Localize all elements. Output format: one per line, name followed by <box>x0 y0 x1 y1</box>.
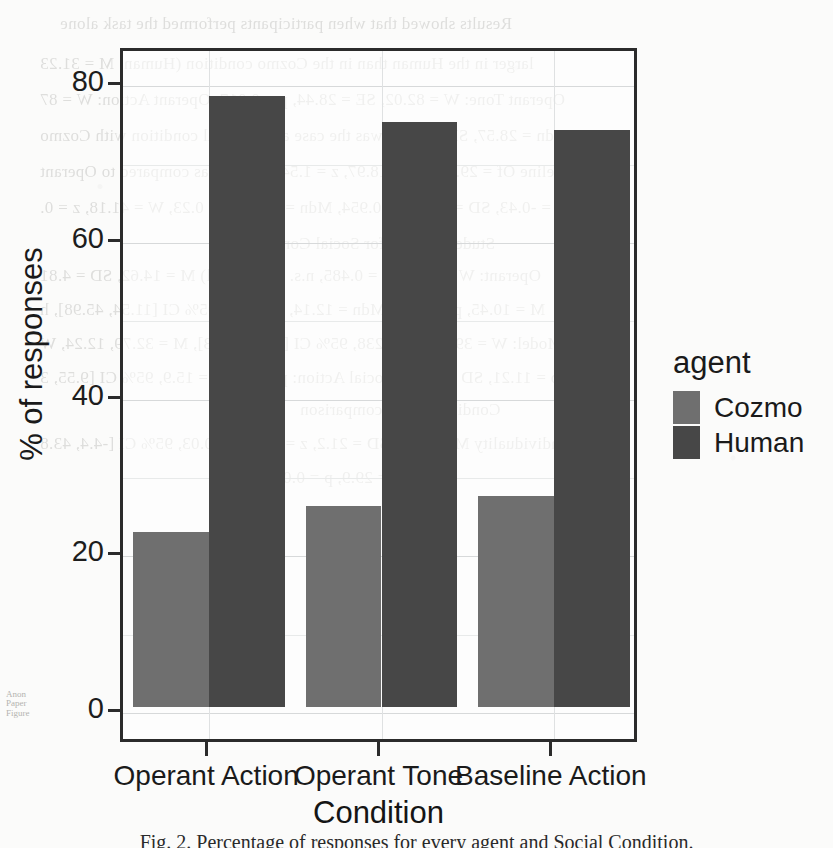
x-axis-tick-mark <box>377 742 380 756</box>
legend-entries: CozmoHuman <box>673 390 804 460</box>
y-axis-tick-mark <box>108 82 121 85</box>
y-axis-tick: 20 <box>48 535 104 571</box>
gridline-major <box>123 713 634 714</box>
bar-human-baseline-action <box>554 130 630 707</box>
y-axis-tick-mark <box>108 552 121 555</box>
figure-caption: Fig. 2. Percentage of responses for ever… <box>0 831 833 848</box>
legend: agent CozmoHuman <box>673 345 804 460</box>
bar-human-operant-tone <box>382 122 458 707</box>
legend-label: Human <box>714 427 804 459</box>
y-axis-tick: 60 <box>48 222 104 258</box>
bar-cozmo-baseline-action <box>478 496 554 708</box>
x-axis-tick: Baseline Action <box>421 760 681 792</box>
x-axis-tick-mark <box>205 742 208 756</box>
y-axis-tick-mark <box>108 239 121 242</box>
y-axis-tick-label: 80 <box>48 65 104 98</box>
figure-page: Results showed that when participants pe… <box>0 0 833 848</box>
x-axis-tick-label: Baseline Action <box>455 760 646 791</box>
legend-title: agent <box>673 345 804 381</box>
bar-cozmo-operant-action <box>133 532 209 707</box>
y-axis-tick-label: 0 <box>48 692 104 725</box>
y-axis-tick-label: 20 <box>48 535 104 568</box>
y-axis-tick-mark <box>108 709 121 712</box>
x-axis-tick-mark <box>549 742 552 756</box>
plot-panel <box>120 48 637 742</box>
legend-swatch-human <box>673 426 700 459</box>
y-axis-tick-mark <box>108 396 121 399</box>
y-axis-tick-label: 40 <box>48 379 104 412</box>
legend-item-cozmo[interactable]: Cozmo <box>673 390 804 425</box>
y-axis-tick: 80 <box>48 65 104 101</box>
bar-chart-figure: 020406080 % of responses Operant ActionO… <box>0 0 833 848</box>
y-axis-tick: 40 <box>48 379 104 415</box>
legend-label: Cozmo <box>714 392 803 424</box>
legend-item-human[interactable]: Human <box>673 425 804 460</box>
gridline-major <box>123 86 634 87</box>
y-axis-tick-label: 60 <box>48 222 104 255</box>
legend-swatch-cozmo <box>673 391 700 424</box>
x-axis-title: Condition <box>120 795 637 831</box>
bar-human-operant-action <box>209 96 285 707</box>
y-axis-tick: 0 <box>48 692 104 728</box>
y-axis-title: % of responses <box>14 154 50 554</box>
bar-cozmo-operant-tone <box>306 506 382 707</box>
